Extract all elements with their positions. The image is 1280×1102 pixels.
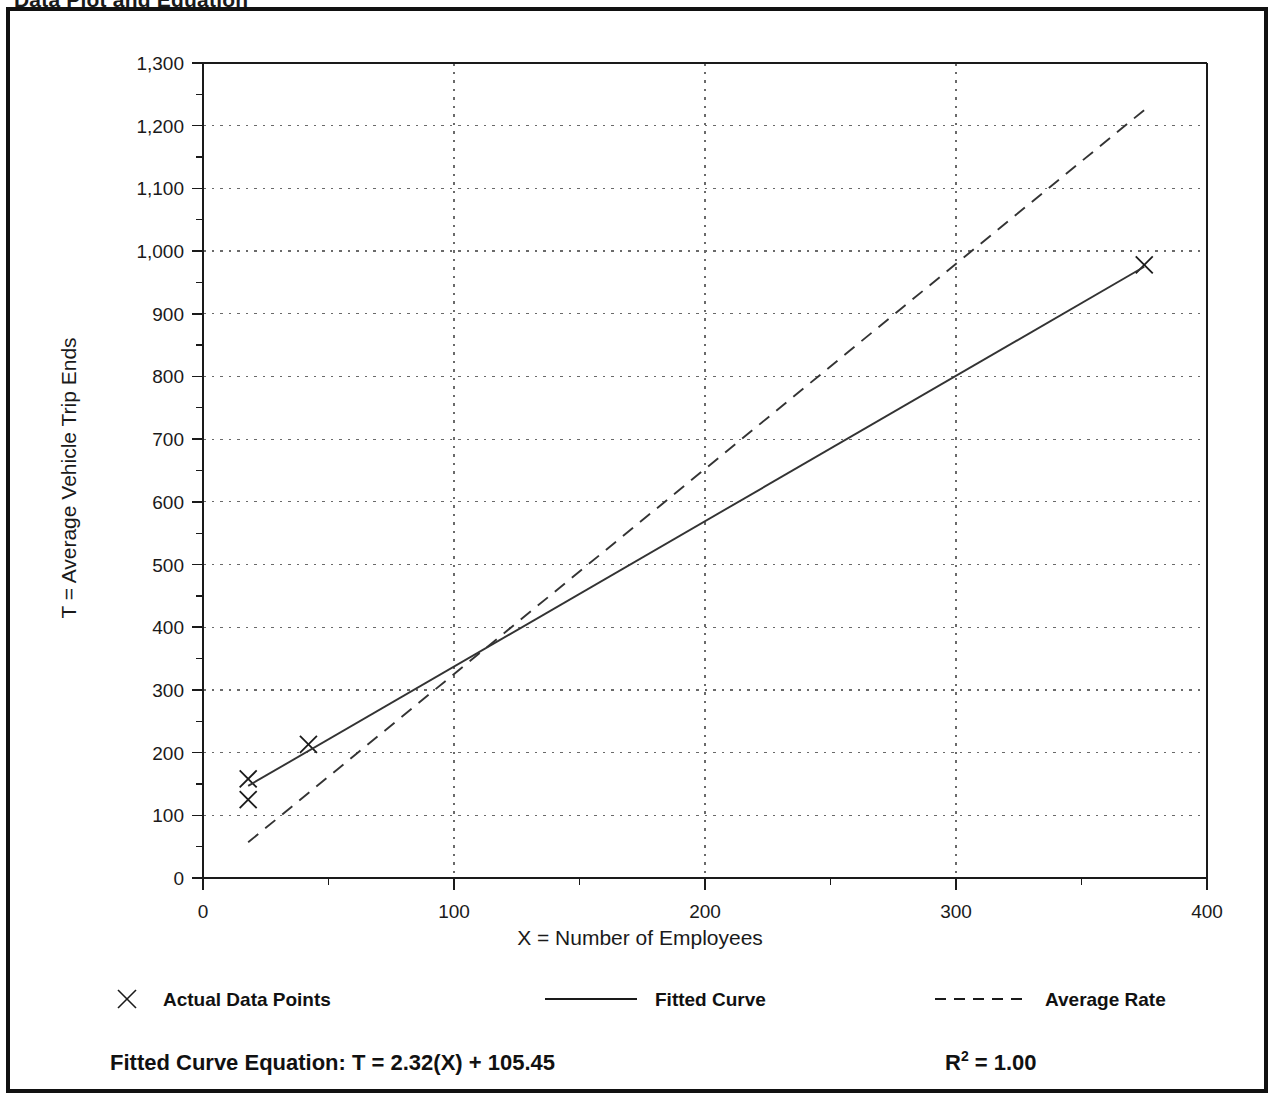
x-axis-tick-label: 0 bbox=[198, 901, 209, 922]
x-axis-tick-label: 200 bbox=[689, 901, 721, 922]
y-axis-tick-label: 1,000 bbox=[136, 241, 184, 262]
y-axis-tick-label: 300 bbox=[152, 680, 184, 701]
r-squared-text: R2 = 1.00 bbox=[945, 1048, 1037, 1075]
average-rate-line bbox=[248, 110, 1144, 842]
equation-label: Fitted Curve Equation: bbox=[110, 1050, 346, 1075]
chart-svg: 01002003004005006007008009001,0001,1001,… bbox=[0, 0, 1280, 1102]
equation-value: T = 2.32(X) + 105.45 bbox=[352, 1050, 555, 1075]
x-axis-tick-label: 400 bbox=[1191, 901, 1223, 922]
x-axis-title: X = Number of Employees bbox=[517, 926, 763, 949]
y-axis-tick-label: 1,100 bbox=[136, 178, 184, 199]
y-axis-tick-label: 400 bbox=[152, 617, 184, 638]
legend-item-label: Fitted Curve bbox=[655, 989, 766, 1010]
chart-footer: Fitted Curve Equation: T = 2.32(X) + 105… bbox=[110, 1048, 1037, 1075]
r-squared-exponent: 2 bbox=[961, 1048, 969, 1064]
legend-item-label: Actual Data Points bbox=[163, 989, 331, 1010]
y-axis-tick-label: 1,300 bbox=[136, 53, 184, 74]
y-axis-tick-label: 900 bbox=[152, 304, 184, 325]
y-axis-tick-label: 200 bbox=[152, 743, 184, 764]
y-axis-tick-label: 800 bbox=[152, 366, 184, 387]
y-axis-tick-label: 0 bbox=[173, 868, 184, 889]
y-axis-tick-label: 500 bbox=[152, 555, 184, 576]
tick-labels-layer: 01002003004005006007008009001,0001,1001,… bbox=[136, 53, 1222, 922]
x-axis-tick-label: 300 bbox=[940, 901, 972, 922]
r-squared-base: R bbox=[945, 1050, 961, 1075]
y-axis-tick-label: 600 bbox=[152, 492, 184, 513]
data-series-layer bbox=[240, 110, 1153, 842]
chart-figure: 01002003004005006007008009001,0001,1001,… bbox=[0, 0, 1280, 1102]
data-point-marker bbox=[240, 791, 257, 808]
chart-legend: Actual Data PointsFitted CurveAverage Ra… bbox=[118, 989, 1166, 1010]
ticks-layer bbox=[192, 63, 1207, 890]
legend-item-label: Average Rate bbox=[1045, 989, 1166, 1010]
y-axis-tick-label: 100 bbox=[152, 805, 184, 826]
legend-x-marker-icon bbox=[118, 990, 136, 1008]
y-axis-tick-label: 1,200 bbox=[136, 116, 184, 137]
legend-item: Actual Data Points bbox=[118, 989, 331, 1010]
y-axis-tick-label: 700 bbox=[152, 429, 184, 450]
equation-text: Fitted Curve Equation: T = 2.32(X) + 105… bbox=[110, 1050, 555, 1075]
fitted-curve-line bbox=[248, 267, 1144, 786]
y-axis-title: T = Average Vehicle Trip Ends bbox=[57, 337, 80, 618]
legend-item: Fitted Curve bbox=[545, 989, 766, 1010]
r-squared-value: = 1.00 bbox=[969, 1050, 1037, 1075]
legend-item: Average Rate bbox=[935, 989, 1166, 1010]
x-axis-tick-label: 100 bbox=[438, 901, 470, 922]
